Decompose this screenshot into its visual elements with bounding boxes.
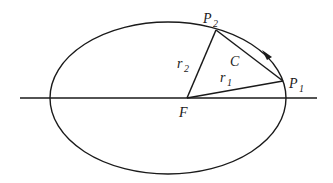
label-chord: C bbox=[230, 54, 240, 69]
label-p1-sub: 1 bbox=[299, 83, 304, 94]
radius-r1-line bbox=[187, 81, 283, 98]
label-p2-sub: 2 bbox=[213, 18, 218, 29]
label-p1: P bbox=[288, 76, 298, 91]
label-focus: F bbox=[178, 105, 188, 120]
label-r1: r bbox=[220, 70, 226, 85]
chord-c-line bbox=[216, 30, 283, 81]
orbit-diagram: P 2 P 1 F C r 2 r 1 bbox=[0, 0, 333, 183]
radius-r2-line bbox=[187, 30, 216, 98]
label-r1-sub: 1 bbox=[227, 77, 232, 88]
label-r2: r bbox=[177, 56, 183, 71]
direction-arrow-icon bbox=[262, 50, 272, 60]
label-r2-sub: 2 bbox=[184, 63, 189, 74]
label-p2: P bbox=[202, 11, 212, 26]
